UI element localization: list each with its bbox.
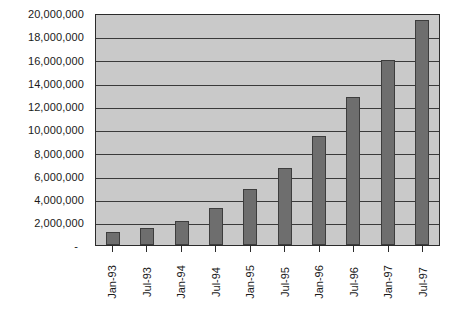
- x-label-slot: Jul-95: [268, 252, 303, 314]
- x-tick-label-jul-95: Jul-95: [279, 267, 290, 297]
- x-tick-label-jul-96: Jul-96: [348, 267, 359, 297]
- x-label-slot: Jan-97: [371, 252, 406, 314]
- x-label-slot: Jan-95: [233, 252, 268, 314]
- bar-slot: [302, 15, 336, 245]
- x-label-slot: Jan-94: [164, 252, 199, 314]
- x-axis: Jan-93 Jul-93 Jan-94 Jul-94 Jan-95 Jul-9…: [95, 252, 440, 314]
- bar-slot: [165, 15, 199, 245]
- y-tick-label-20000000: 20,000,000: [0, 9, 84, 20]
- x-label-slot: Jan-96: [302, 252, 337, 314]
- y-tick-label-2000000: 2,000,000: [0, 218, 84, 229]
- x-tick-label-jul-93: Jul-93: [141, 267, 152, 297]
- x-tick-label-jan-95: Jan-95: [245, 265, 256, 299]
- x-label-slot: Jul-96: [337, 252, 372, 314]
- bar-slot: [130, 15, 164, 245]
- plot-area: [95, 14, 440, 246]
- y-tick-label-10000000: 10,000,000: [0, 125, 84, 136]
- y-tick-label-4000000: 4,000,000: [0, 195, 84, 206]
- bar-jan-96[interactable]: [312, 136, 326, 245]
- y-tick-label-zero: -: [0, 241, 78, 252]
- bars-layer: [96, 15, 439, 245]
- bar-jan-93[interactable]: [106, 232, 120, 245]
- bar-slot: [96, 15, 130, 245]
- bar-slot: [199, 15, 233, 245]
- bar-jul-95[interactable]: [278, 168, 292, 245]
- x-label-slot: Jul-97: [406, 252, 441, 314]
- bar-slot: [267, 15, 301, 245]
- bar-jan-97[interactable]: [381, 60, 395, 245]
- x-tick-label-jan-94: Jan-94: [176, 265, 187, 299]
- bar-jul-94[interactable]: [209, 208, 223, 245]
- bar-slot: [336, 15, 370, 245]
- y-tick-label-16000000: 16,000,000: [0, 56, 84, 67]
- x-tick-label-jan-97: Jan-97: [383, 265, 394, 299]
- x-tick-label-jul-94: Jul-94: [210, 267, 221, 297]
- y-tick-label-18000000: 18,000,000: [0, 32, 84, 43]
- bar-jan-94[interactable]: [175, 221, 189, 245]
- x-tick-label-jul-97: Jul-97: [417, 267, 428, 297]
- y-tick-label-12000000: 12,000,000: [0, 102, 84, 113]
- x-label-slot: Jul-94: [199, 252, 234, 314]
- x-tick-label-jan-93: Jan-93: [107, 265, 118, 299]
- bar-chart-figure: 20,000,000 18,000,000 16,000,000 14,000,…: [0, 0, 461, 314]
- y-tick-label-14000000: 14,000,000: [0, 79, 84, 90]
- y-tick-label-8000000: 8,000,000: [0, 149, 84, 160]
- bar-jan-95[interactable]: [243, 189, 257, 245]
- bar-slot: [233, 15, 267, 245]
- x-label-slot: Jan-93: [95, 252, 130, 314]
- y-axis: 20,000,000 18,000,000 16,000,000 14,000,…: [0, 0, 90, 314]
- bar-jul-97[interactable]: [415, 20, 429, 245]
- y-tick-label-6000000: 6,000,000: [0, 172, 84, 183]
- bar-slot: [370, 15, 404, 245]
- bar-slot: [405, 15, 439, 245]
- bar-jul-93[interactable]: [140, 228, 154, 245]
- x-tick-label-jan-96: Jan-96: [314, 265, 325, 299]
- x-label-slot: Jul-93: [130, 252, 165, 314]
- bar-jul-96[interactable]: [346, 97, 360, 245]
